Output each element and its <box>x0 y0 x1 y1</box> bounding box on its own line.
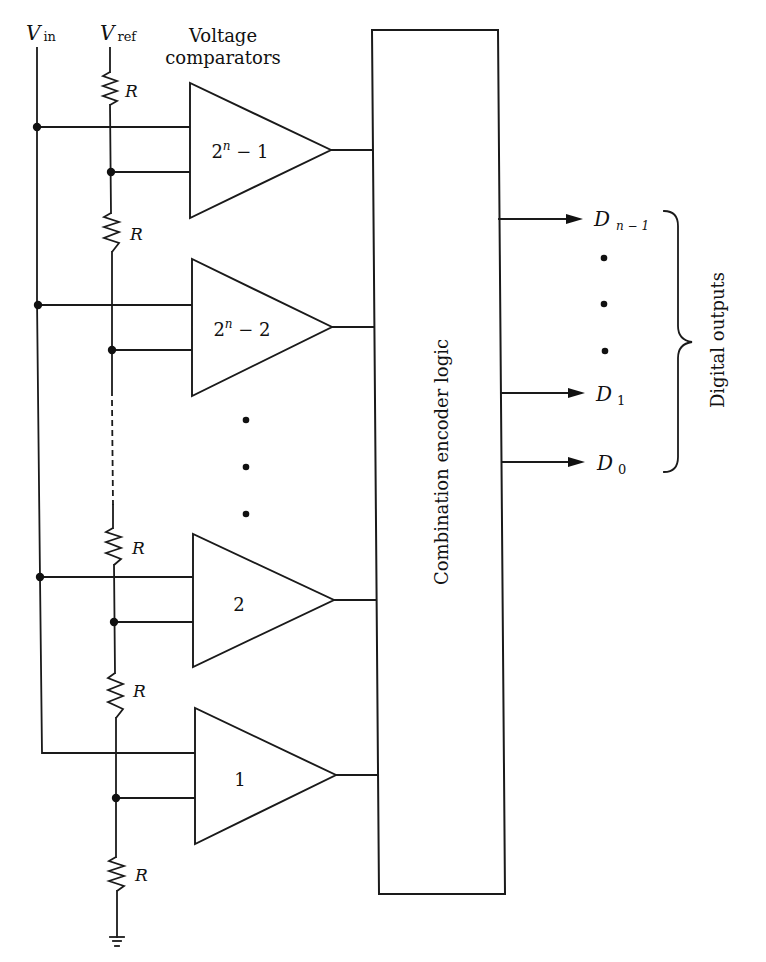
comparator-2: 2 <box>193 534 376 667</box>
resistor-2 <box>104 213 119 252</box>
svg-text:2: 2 <box>233 594 244 615</box>
junction-dot <box>110 618 118 626</box>
resistor-label: R <box>132 681 146 701</box>
digital-outputs-label: Digital outputs <box>707 272 728 408</box>
curly-brace-icon <box>664 211 692 472</box>
comparator-ellipsis <box>243 417 250 518</box>
resistor-3 <box>106 528 121 565</box>
output-ellipsis <box>601 255 609 355</box>
junction-dot <box>34 301 42 309</box>
svg-text:D0: D0 <box>596 451 626 477</box>
svg-text:2n − 1: 2n − 1 <box>211 139 268 162</box>
arrow-right-icon <box>568 457 585 467</box>
svg-text:2n − 2: 2n − 2 <box>213 317 270 340</box>
arrow-right-icon <box>568 388 585 398</box>
comparator-2n-minus-2: 2n − 2 <box>192 259 374 396</box>
digital-outputs: Dn − 1 D1 D0 Digital outputs <box>499 207 728 477</box>
encoder-label: Combination encoder logic <box>431 339 452 585</box>
comparators-heading-line1: Voltage <box>188 25 257 46</box>
resistor-label: R <box>124 81 138 101</box>
junction-dot <box>36 573 44 581</box>
output-d1: D1 <box>501 382 625 408</box>
ground-icon <box>110 937 124 946</box>
resistor-1 <box>103 72 117 105</box>
output-d0: D0 <box>502 451 626 477</box>
arrow-right-icon <box>566 214 583 224</box>
svg-text:D1: D1 <box>595 382 625 408</box>
resistor-5 <box>109 857 124 891</box>
junction-dot <box>112 794 120 802</box>
resistor-4 <box>108 673 123 718</box>
junction-dot <box>107 168 115 176</box>
svg-text:Dn − 1: Dn − 1 <box>593 207 649 233</box>
flash-adc-diagram: R R R R R Vin Vref Voltage comparators 2… <box>0 0 766 962</box>
comparators-heading-line2: comparators <box>165 47 281 68</box>
vin-label: Vin <box>26 21 57 45</box>
junction-dot <box>33 123 41 131</box>
output-msb: Dn − 1 <box>499 207 649 233</box>
junction-dot <box>108 346 116 354</box>
svg-text:1: 1 <box>234 769 245 790</box>
comparator-1: 1 <box>195 708 378 844</box>
reference-ladder <box>103 48 195 946</box>
encoder-block: Combination encoder logic <box>372 30 505 894</box>
resistor-label: R <box>129 224 143 244</box>
vref-label: Vref <box>100 21 137 45</box>
resistor-label: R <box>131 538 145 558</box>
comparator-2n-minus-1: 2n − 1 <box>190 83 372 218</box>
resistor-label: R <box>134 865 148 885</box>
